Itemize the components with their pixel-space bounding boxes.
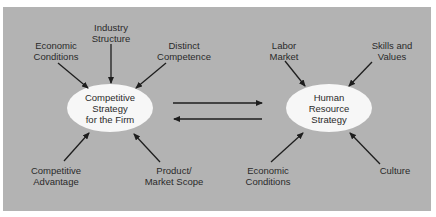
label-industry-structure: Industry Structure [76, 22, 146, 44]
hr-strategy-label: Human Resource Strategy [289, 92, 369, 125]
arrow-economic-conditions [58, 63, 88, 88]
arrow-economic-conditions-hr [271, 133, 303, 162]
label-labor-market: Labor Market [254, 40, 314, 62]
arrow-labor-market [285, 61, 305, 86]
arrow-product-market-scope [134, 134, 160, 162]
competitive-strategy-label: Competitive Strategy for the Firm [70, 92, 150, 125]
arrow-competitive-advantage [64, 133, 89, 161]
label-distinct-competence: Distinct Competence [146, 40, 222, 62]
label-culture: Culture [370, 165, 420, 176]
arrow-skills-and-values [349, 62, 372, 86]
label-skills-and-values: Skills and Values [357, 40, 427, 62]
arrow-distinct-competence [136, 63, 166, 88]
label-product-market-scope: Product/ Market Scope [136, 165, 212, 187]
label-economic-conditions-hr: Economic Conditions [233, 165, 303, 187]
arrow-culture [350, 133, 380, 164]
label-competitive-advantage: Competitive Advantage [20, 165, 92, 187]
